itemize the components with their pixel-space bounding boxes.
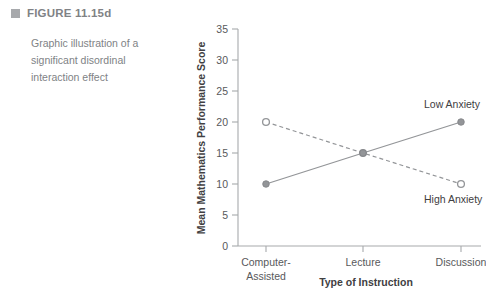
x-axis-title: Type of Instruction: [319, 276, 413, 288]
y-tick-label: 30: [216, 54, 228, 66]
data-point: [263, 181, 270, 188]
y-tick-label: 35: [216, 23, 228, 35]
series-label-low-anxiety: Low Anxiety: [424, 98, 481, 110]
figure-header: FIGURE 11.15d: [11, 7, 111, 19]
y-tick-label: 20: [216, 116, 228, 128]
y-axis-ticks: 0 5 10 15 20 25 30 35: [216, 23, 238, 252]
x-tick-label: Computer-: [241, 256, 291, 268]
x-tick-label: Discussion: [436, 256, 486, 268]
series-high-anxiety: High Anxiety: [263, 119, 484, 205]
y-tick-label: 15: [216, 147, 228, 159]
series-label-high-anxiety: High Anxiety: [424, 193, 483, 205]
data-point: [360, 150, 367, 157]
figure-description-line: interaction effect: [31, 69, 171, 86]
square-bullet-icon: [11, 9, 20, 18]
x-tick-label: Assisted: [246, 270, 286, 282]
data-point: [263, 119, 270, 126]
y-tick-label: 0: [222, 240, 228, 252]
figure-description-line: Graphic illustration of a: [31, 35, 171, 52]
figure-description-line: significant disordinal: [31, 52, 171, 69]
interaction-line-chart: Mean Mathematics Performance Score 0 5 1…: [196, 0, 486, 290]
y-tick-label: 5: [222, 209, 228, 221]
y-tick-label: 10: [216, 178, 228, 190]
figure-page: FIGURE 11.15d Graphic illustration of a …: [0, 0, 486, 290]
data-point: [458, 181, 465, 188]
chart-svg: Mean Mathematics Performance Score 0 5 1…: [196, 0, 486, 290]
figure-caption-block: FIGURE 11.15d Graphic illustration of a …: [0, 0, 196, 290]
y-axis-title: Mean Mathematics Performance Score: [196, 42, 207, 235]
x-tick-label: Lecture: [345, 256, 380, 268]
figure-title: FIGURE 11.15d: [27, 7, 111, 19]
data-point: [458, 119, 465, 126]
figure-description: Graphic illustration of a significant di…: [31, 35, 171, 86]
series-low-anxiety: Low Anxiety: [263, 98, 481, 187]
y-tick-label: 25: [216, 85, 228, 97]
